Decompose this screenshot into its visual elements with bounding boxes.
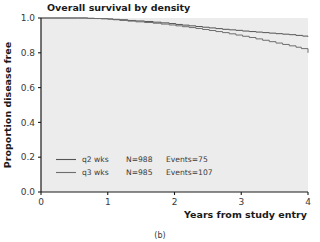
y-axis-title: Proportion disease free — [2, 42, 13, 168]
y-tick-label: 0.0 — [21, 187, 36, 197]
y-tick-label: 0.6 — [21, 83, 36, 93]
legend-n-label: N=988 — [126, 155, 153, 164]
legend-series-label: q3 wks — [82, 168, 109, 177]
x-axis-ticks: 01234 — [38, 192, 311, 207]
legend-n-label: N=985 — [126, 168, 153, 177]
survival-chart: 0.00.20.40.60.81.0 01234 Overall surviva… — [0, 0, 320, 242]
x-tick-label: 4 — [305, 197, 311, 207]
x-tick-label: 1 — [105, 197, 111, 207]
legend-events-label: Events=107 — [166, 168, 213, 177]
figure-panel: 0.00.20.40.60.81.0 01234 Overall surviva… — [0, 0, 320, 242]
chart-title: Overall survival by density — [47, 2, 191, 13]
x-tick-label: 2 — [172, 197, 178, 207]
y-tick-label: 1.0 — [21, 13, 36, 23]
y-axis-ticks: 0.00.20.40.60.81.0 — [21, 13, 41, 197]
y-tick-label: 0.8 — [21, 48, 36, 58]
figure-caption: (b) — [154, 231, 165, 240]
x-axis-title: Years from study entry — [183, 209, 308, 220]
legend-events-label: Events=75 — [166, 155, 208, 164]
y-tick-label: 0.2 — [21, 152, 35, 162]
x-tick-label: 0 — [38, 197, 44, 207]
plot-background — [41, 18, 308, 192]
y-tick-label: 0.4 — [21, 118, 36, 128]
legend-series-label: q2 wks — [82, 155, 109, 164]
x-tick-label: 3 — [238, 197, 244, 207]
